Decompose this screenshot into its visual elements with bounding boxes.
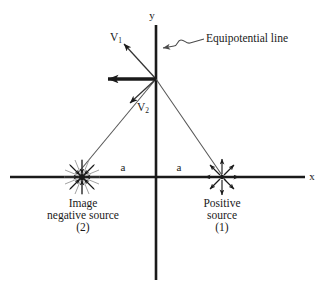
negative-source-caption: Image negative source (2) — [47, 198, 119, 234]
vector-v2-arrow — [130, 79, 156, 103]
negative-source-caption-line-3: (2) — [47, 222, 119, 234]
vector-v1-arrow — [124, 44, 156, 79]
ray-to-negative-source — [78, 79, 156, 173]
positive-source-caption-line-3: (1) — [203, 222, 240, 234]
positive-source-glyph — [205, 159, 239, 195]
vector-v2-subscript: 2 — [145, 106, 149, 115]
source-rays-group — [78, 79, 226, 181]
equipotential-line-label: Equipotential line — [206, 33, 288, 45]
vector-v1-subscript: 1 — [118, 36, 122, 45]
x-axis-label: x — [309, 171, 315, 182]
distance-a-right-label: a — [177, 162, 182, 173]
axes-group — [10, 25, 305, 280]
distance-a-left-label: a — [121, 162, 126, 173]
ray-to-positive-source — [156, 79, 226, 181]
positive-source-caption: Positive source (1) — [203, 198, 240, 234]
vectors-group — [108, 44, 156, 103]
y-axis-label: y — [149, 10, 155, 21]
equipotential-line-leader — [163, 39, 204, 48]
equipotential-line-diagram: y x V1 V2 a a Equipotential line Image n… — [0, 0, 327, 293]
vector-v1-label: V1 — [110, 32, 122, 45]
negative-source-glyph — [64, 159, 100, 195]
callout-leader-group — [163, 39, 204, 48]
vector-v2-label: V2 — [137, 102, 149, 115]
